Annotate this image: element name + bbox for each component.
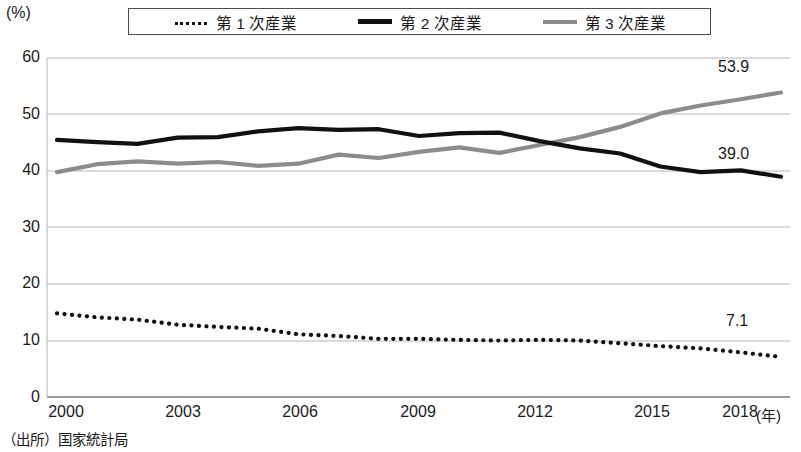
chart-plot-area [0, 0, 801, 452]
series-line-primary-industry [57, 313, 781, 357]
data-series-group [57, 93, 781, 357]
data-label-primary-end: 7.1 [726, 312, 748, 330]
data-label-secondary-end: 39.0 [718, 145, 749, 163]
series-line-tertiary-industry [57, 93, 781, 173]
source-note: （出所）国家統計局 [2, 428, 128, 449]
chart-figure: (%) 第 1 次産業 第 2 次産業 第 3 次産業 60 50 40 30 … [0, 0, 801, 452]
data-label-tertiary-end: 53.9 [718, 58, 749, 76]
